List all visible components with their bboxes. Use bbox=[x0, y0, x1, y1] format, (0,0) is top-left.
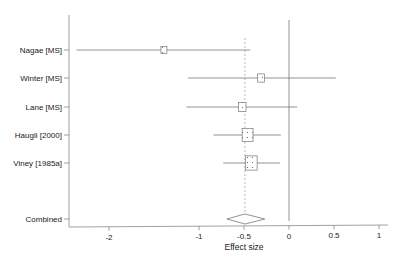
effect-box bbox=[161, 46, 167, 53]
x-axis: -2-1-0.500.51 bbox=[105, 225, 381, 242]
effect-box bbox=[242, 128, 253, 141]
study-label: Winter [MS] bbox=[20, 74, 62, 83]
study-row: Winter [MS] bbox=[20, 74, 336, 83]
x-tick-label: -1 bbox=[195, 232, 203, 241]
x-axis-line bbox=[69, 225, 388, 227]
study-label: Nagae [MS] bbox=[20, 46, 62, 55]
x-axis-label: Effect size bbox=[224, 242, 263, 252]
x-tick-label: -0.5 bbox=[237, 232, 251, 241]
forest-plot: Nagae [MS]Winter [MS]Lane [MS]Haugli [20… bbox=[0, 0, 405, 262]
combined-diamond bbox=[227, 214, 265, 224]
x-tick-label: 1 bbox=[377, 231, 382, 240]
study-row: Viney [1985a] bbox=[13, 156, 280, 170]
effect-box bbox=[258, 74, 265, 82]
study-rows: Nagae [MS]Winter [MS]Lane [MS]Haugli [20… bbox=[13, 46, 336, 170]
study-label: Lane [MS] bbox=[26, 103, 62, 112]
x-tick-label: -2 bbox=[105, 233, 113, 242]
study-row: Nagae [MS] bbox=[20, 46, 251, 55]
x-tick-label: 0.5 bbox=[328, 231, 340, 240]
effect-box bbox=[245, 156, 257, 170]
study-row: Haugli [2000] bbox=[15, 128, 281, 141]
study-label: Haugli [2000] bbox=[15, 131, 62, 140]
study-label: Viney [1985a] bbox=[13, 159, 62, 168]
plot-axes bbox=[69, 15, 388, 227]
reference-lines bbox=[245, 20, 289, 225]
combined-label: Combined bbox=[26, 215, 62, 224]
combined-row: Combined bbox=[26, 214, 265, 224]
effect-box bbox=[238, 102, 246, 111]
x-tick-label: 0 bbox=[287, 232, 292, 241]
study-row: Lane [MS] bbox=[26, 102, 298, 112]
